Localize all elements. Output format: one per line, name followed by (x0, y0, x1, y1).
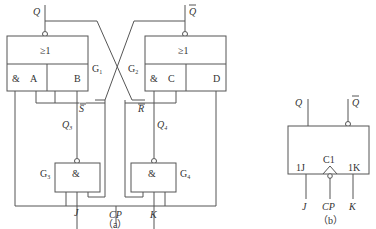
caption-b: （b） (318, 215, 343, 226)
or-symbol: ≥1 (40, 45, 51, 56)
j-input-label: J (302, 201, 307, 212)
q-bar-output-label: Q (352, 97, 360, 108)
r-bar-label: R (137, 103, 144, 114)
input-a-label: A (30, 73, 38, 84)
gate-g3: & G3 (40, 159, 100, 193)
g2-label: G2 (128, 63, 138, 75)
input-b-label: B (74, 73, 81, 84)
k-input-label: K (348, 201, 357, 212)
input-d-label: D (213, 73, 220, 84)
diagram-b: Q Q 1J C1 1K J CP K （b） (288, 96, 369, 226)
k-pin-label: 1K (348, 162, 361, 173)
j-input-label: J (74, 207, 79, 218)
q-bar-output-label: Q (189, 6, 197, 17)
gate-g2: ≥1 & C D G2 (128, 32, 226, 92)
g4-label: G4 (180, 168, 190, 180)
gate-g4: & G4 (131, 159, 190, 193)
q3-label: Q3 (62, 119, 72, 131)
jk-flip-flop-diagram: Q Q ≥1 & A B G1 ≥1 & C D (0, 0, 376, 229)
input-c-label: C (168, 73, 175, 84)
inversion-bubble-icon (328, 174, 333, 179)
and-symbol: & (72, 168, 80, 179)
and-symbol: & (148, 168, 156, 179)
and-symbol: & (12, 73, 20, 84)
or-symbol: ≥1 (178, 45, 189, 56)
k-input-label: K (149, 209, 158, 220)
and-symbol: & (150, 73, 158, 84)
j-pin-label: 1J (296, 162, 305, 173)
s-bar-label: S (79, 103, 84, 114)
diagram-a: Q Q ≥1 & A B G1 ≥1 & C D (7, 5, 226, 229)
gate-g1: ≥1 & A B G1 (7, 32, 102, 92)
g1-label: G1 (92, 63, 102, 75)
q-output-label: Q (295, 97, 303, 108)
clock-pin-label: C1 (323, 154, 335, 165)
g3-label: G3 (40, 168, 50, 180)
q4-label: Q4 (157, 119, 167, 131)
caption-a: （a） (103, 219, 127, 229)
cp-input-label: CP (322, 201, 335, 212)
q-output-label: Q (33, 6, 41, 17)
